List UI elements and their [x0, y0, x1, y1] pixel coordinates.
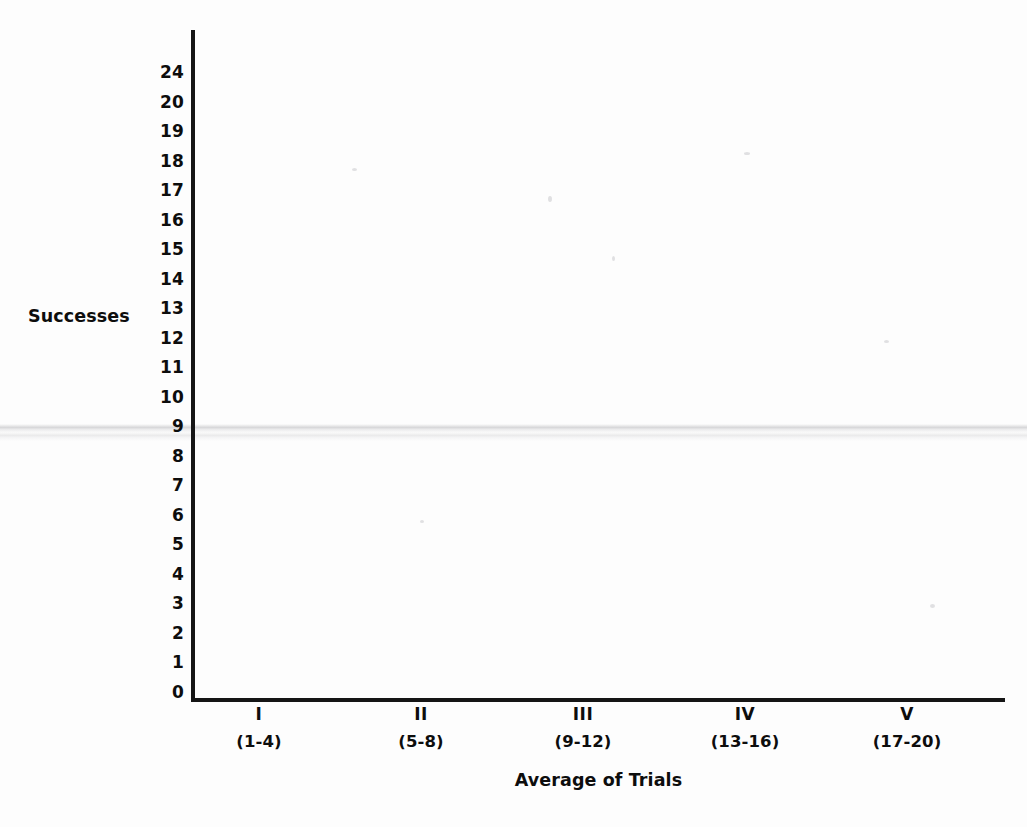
y-axis-tick-labels: 2420191817161514131211109876543210 [134, 0, 184, 827]
x-tick-range: (1-4) [184, 734, 334, 751]
x-axis-title: Average of Trials [0, 770, 1027, 790]
x-tick-group: II(5-8) [346, 706, 496, 751]
x-axis-tick-labels: I(1-4)II(5-8)III(9-12)IV(13-16)V(17-20) [0, 706, 1027, 766]
x-tick-group: IV(13-16) [670, 706, 820, 751]
y-tick-label: 5 [138, 536, 184, 553]
y-tick-label: 4 [138, 566, 184, 583]
x-tick-roman: III [508, 706, 658, 723]
y-tick-label: 24 [138, 64, 184, 81]
y-tick-label: 18 [138, 153, 184, 170]
y-tick-label: 7 [138, 477, 184, 494]
y-tick-label: 13 [138, 300, 184, 317]
x-tick-group: III(9-12) [508, 706, 658, 751]
x-axis-line [191, 698, 1005, 702]
x-tick-range: (13-16) [670, 734, 820, 751]
y-tick-label: 3 [138, 595, 184, 612]
x-tick-range: (5-8) [346, 734, 496, 751]
x-tick-roman: IV [670, 706, 820, 723]
y-tick-label: 1 [138, 654, 184, 671]
x-tick-group: V(17-20) [832, 706, 982, 751]
x-tick-group: I(1-4) [184, 706, 334, 751]
chart-figure: Successes 242019181716151413121110987654… [0, 0, 1027, 827]
y-tick-label: 10 [138, 389, 184, 406]
y-tick-label: 17 [138, 182, 184, 199]
x-tick-roman: II [346, 706, 496, 723]
y-axis-title: Successes [28, 306, 130, 326]
y-tick-label: 20 [138, 94, 184, 111]
y-tick-label: 12 [138, 330, 184, 347]
y-tick-label: 14 [138, 271, 184, 288]
y-tick-label: 9 [138, 418, 184, 435]
x-tick-roman: V [832, 706, 982, 723]
plot-area [195, 30, 1005, 698]
y-tick-label: 19 [138, 123, 184, 140]
y-tick-label: 2 [138, 625, 184, 642]
y-tick-label: 15 [138, 241, 184, 258]
x-tick-range: (17-20) [832, 734, 982, 751]
y-tick-label: 8 [138, 448, 184, 465]
y-tick-label: 11 [138, 359, 184, 376]
y-tick-label: 16 [138, 212, 184, 229]
x-tick-range: (9-12) [508, 734, 658, 751]
y-tick-label: 0 [138, 684, 184, 701]
y-tick-label: 6 [138, 507, 184, 524]
x-tick-roman: I [184, 706, 334, 723]
